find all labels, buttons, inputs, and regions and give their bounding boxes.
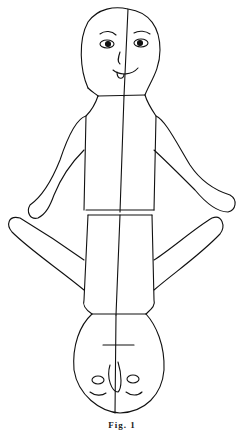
left-arm xyxy=(28,116,86,218)
lower-right-eye xyxy=(127,375,139,383)
left-leg xyxy=(9,217,84,290)
upper-head xyxy=(81,8,160,96)
right-arm xyxy=(154,116,235,212)
right-leg xyxy=(154,217,223,290)
figure-caption: Fig. 1 xyxy=(0,420,244,430)
lower-head xyxy=(74,314,164,413)
upper-torso xyxy=(84,95,156,215)
lower-torso xyxy=(83,215,154,315)
lower-left-eye xyxy=(92,376,104,384)
doll-figure xyxy=(0,0,244,431)
